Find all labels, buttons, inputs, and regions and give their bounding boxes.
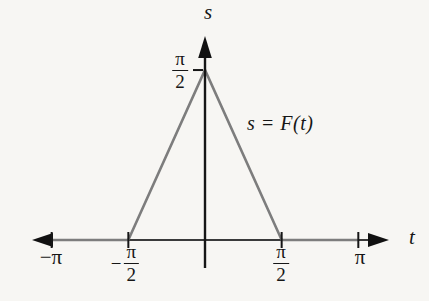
tick-label-half-pi: π2: [273, 242, 289, 285]
fraction-numerator: π: [172, 49, 188, 71]
t-axis-label: t: [409, 227, 415, 248]
fraction-denominator: 2: [124, 264, 140, 285]
tick-label-neg-half-pi: −π2: [111, 242, 139, 285]
fraction-denominator: 2: [172, 71, 188, 92]
fraction-pi-over-2: π2: [273, 242, 289, 285]
minus-sign: −: [111, 253, 122, 274]
tick-label-neg-pi: −π: [40, 247, 62, 268]
fraction-denominator: 2: [273, 264, 289, 285]
fraction-pi-over-2: π2: [124, 242, 140, 285]
t-axis-right-arrowhead: [368, 233, 389, 247]
fraction-numerator: π: [273, 242, 289, 264]
s-axis-arrowhead: [198, 36, 212, 58]
fraction-pi-over-2: π2: [172, 49, 188, 92]
figure: s t s = F(t) −π −π2 π2 π π2: [0, 0, 429, 301]
fraction-numerator: π: [124, 242, 140, 264]
curve-annotation: s = F(t): [247, 112, 313, 134]
tick-label-pi: π: [355, 247, 366, 268]
s-axis-label: s: [204, 2, 212, 23]
tick-label-s-half-pi: π2: [172, 49, 188, 92]
